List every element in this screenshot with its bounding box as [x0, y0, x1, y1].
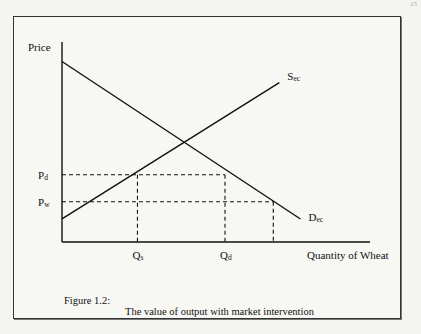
figure-caption: Figure 1.2: The value of output with mar… — [0, 284, 421, 317]
demand-curve — [62, 62, 300, 219]
demand-curve-label: Dec — [308, 211, 323, 224]
y-axis-label: Price — [28, 41, 51, 53]
x-tick-qs: Qs — [132, 249, 143, 262]
figure-title: The value of output with market interven… — [125, 306, 314, 317]
x-tick-qd: Qd — [220, 249, 232, 262]
y-tick-pd: Pd — [38, 169, 48, 182]
supply-curve — [62, 83, 279, 219]
figure-number: Figure 1.2: — [64, 295, 110, 306]
x-axis-label: Quantity of Wheat — [307, 249, 389, 261]
supply-curve-label: Sec — [287, 70, 300, 83]
y-tick-pw: Pw — [38, 196, 50, 209]
